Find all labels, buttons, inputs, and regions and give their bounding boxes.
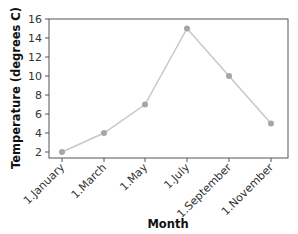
y-tick-label: 8 bbox=[35, 89, 42, 102]
y-tick-label: 16 bbox=[28, 13, 42, 26]
data-point-marker bbox=[184, 26, 190, 32]
plot-frame bbox=[49, 19, 288, 158]
y-tick-label: 4 bbox=[35, 127, 42, 140]
y-tick-label: 14 bbox=[28, 32, 42, 45]
y-axis: 246810121416 bbox=[28, 13, 49, 159]
data-point-marker bbox=[268, 121, 274, 127]
data-series bbox=[59, 26, 274, 156]
line-chart: 246810121416 1.January1.March1.May1.July… bbox=[0, 0, 298, 234]
x-tick-label: 1.July bbox=[162, 161, 193, 192]
y-tick-label: 2 bbox=[35, 146, 42, 159]
x-axis-title: Month bbox=[147, 217, 188, 231]
y-tick-label: 6 bbox=[35, 108, 42, 121]
data-point-marker bbox=[59, 149, 65, 155]
y-axis-title: Temperature (degrees C) bbox=[9, 7, 23, 169]
x-tick-label: 1.January bbox=[21, 161, 67, 207]
data-point-marker bbox=[142, 102, 148, 108]
x-tick-label: 1.May bbox=[117, 161, 150, 194]
x-axis: 1.January1.March1.May1.July1.September1.… bbox=[21, 158, 276, 221]
data-point-marker bbox=[226, 73, 232, 79]
data-point-marker bbox=[101, 130, 107, 136]
y-tick-label: 10 bbox=[28, 70, 42, 83]
y-tick-label: 12 bbox=[28, 51, 42, 64]
x-tick-label: 1.March bbox=[69, 161, 109, 201]
series-line bbox=[62, 29, 271, 153]
